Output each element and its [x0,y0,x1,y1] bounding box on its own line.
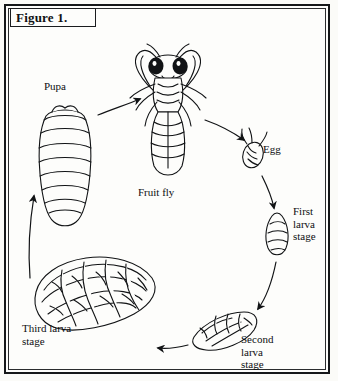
arrow-pupa-to-fruitfly [98,99,140,115]
label-third-larva-stage: Third larva stage [22,322,71,347]
label-first-larva-stage: First larva stage [293,205,316,243]
pupa-drawing [39,106,91,226]
label-second-larva-stage: Second larva stage [241,333,273,371]
arrow-third-larva-to-pupa [29,196,34,278]
third-larva-drawing [35,257,155,330]
label-fruit-fly: Fruit fly [138,186,174,199]
arrow-second-to-third-larva [158,345,188,348]
arrow-fruitfly-to-egg [205,120,244,140]
first-larva-drawing [266,213,288,255]
label-pupa: Pupa [44,80,66,93]
fruit-fly-drawing [130,44,206,175]
arrow-first-to-second-larva [258,262,276,309]
figure-caption-label: Figure 1. [10,8,96,27]
label-egg: Egg [263,143,281,156]
figure-page: Figure 1. Pupa Fruit fly Egg First larva… [0,0,338,381]
arrow-egg-to-first-larva [262,176,274,208]
